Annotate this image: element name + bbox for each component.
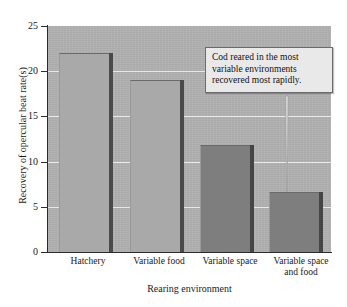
x-tick-label-hatchery: Hatchery	[48, 256, 128, 267]
bar-hatchery-shadow	[109, 53, 113, 252]
x-tick-label-variable-space-line1: Variable space	[202, 256, 257, 266]
bar-hatchery[interactable]	[59, 53, 113, 252]
annotation-callout: Cod reared in the most variable environm…	[205, 47, 333, 93]
bar-variable-food[interactable]	[130, 80, 184, 252]
y-tick-mark-25	[41, 26, 47, 27]
y-axis-line	[47, 25, 48, 253]
y-tick-mark-5	[41, 207, 47, 208]
bar-variable-space-body	[200, 145, 254, 252]
x-axis-title: Rearing environment	[48, 283, 331, 294]
bar-variable-space-shadow	[250, 145, 254, 252]
annotation-leader-line	[282, 96, 294, 192]
bar-variable-space[interactable]	[200, 145, 254, 252]
bar-hatchery-body	[59, 53, 113, 252]
y-tick-mark-20	[41, 71, 47, 72]
bar-variable-food-shadow	[180, 80, 184, 252]
x-tick-label-variable-space-and-food: Variable space and food	[257, 256, 345, 278]
x-tick-label-variable-space-and-food-line2: and food	[284, 267, 318, 277]
y-tick-label-25: 25	[0, 21, 38, 31]
bar-variable-space-and-food[interactable]	[269, 192, 323, 252]
bar-variable-food-body	[130, 80, 184, 252]
x-axis-line	[47, 252, 332, 253]
bar-variable-space-and-food-body	[269, 192, 323, 252]
bar-variable-space-and-food-shadow	[319, 192, 323, 252]
figure-bar-chart: 25 20 15 10 5 0 Hatchery Variable food V…	[0, 0, 347, 307]
y-tick-mark-15	[41, 116, 47, 117]
x-tick-label-variable-food-line1: Variable food	[133, 256, 184, 266]
x-tick-label-variable-space-and-food-line1: Variable space	[273, 256, 328, 266]
y-tick-mark-0	[41, 252, 47, 253]
y-axis-title: Recovery of opercular beat rate(s)	[17, 36, 28, 236]
y-tick-label-0: 0	[0, 247, 38, 257]
y-tick-mark-10	[41, 162, 47, 163]
x-tick-label-hatchery-line1: Hatchery	[71, 256, 106, 266]
